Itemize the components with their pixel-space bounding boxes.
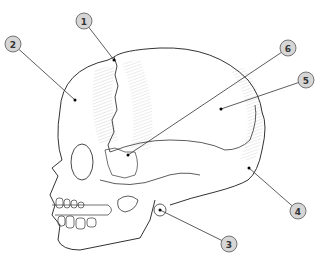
svg-text:4: 4	[295, 207, 301, 217]
callout-6[interactable]: 6	[127, 40, 297, 157]
mandible-notch	[118, 196, 138, 212]
coronal-suture-shading-right	[122, 60, 152, 150]
sphenoid-region	[105, 148, 138, 178]
skull-diagram: 1 2 3 4 5 6	[0, 0, 319, 272]
svg-text:1: 1	[81, 17, 87, 27]
coronal-suture-shading	[92, 65, 118, 145]
callout-4[interactable]: 4	[248, 167, 307, 220]
svg-text:3: 3	[226, 240, 232, 250]
callout-3[interactable]: 3	[159, 209, 238, 253]
callout-5[interactable]: 5	[220, 72, 315, 111]
teeth	[52, 198, 112, 229]
svg-text:6: 6	[285, 44, 291, 54]
callout-2[interactable]: 2	[5, 36, 77, 102]
svg-text:2: 2	[10, 40, 16, 50]
callout-1[interactable]: 1	[76, 13, 116, 62]
zygomatic-arch	[100, 173, 200, 184]
svg-text:5: 5	[303, 76, 309, 86]
squamosal-suture	[110, 105, 256, 152]
temporal-shading	[230, 68, 263, 160]
orbit	[71, 144, 93, 180]
